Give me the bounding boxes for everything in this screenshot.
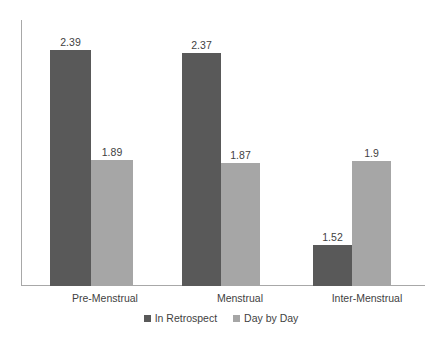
plot-area: 2.39 1.89 2.37 1.87 1.52 xyxy=(22,20,425,286)
legend-swatch-icon xyxy=(144,315,151,322)
bar-day-by-day-0[interactable]: 1.89 xyxy=(91,160,133,286)
legend-item-in-retrospect[interactable]: In Retrospect xyxy=(144,312,217,324)
bar-chart: 2.39 1.89 2.37 1.87 1.52 xyxy=(0,0,442,343)
bar-fill xyxy=(50,50,91,286)
bar-fill xyxy=(352,161,391,286)
category-label-2: Inter-Menstrual xyxy=(282,292,442,305)
bar-value-label: 1.9 xyxy=(364,147,379,159)
bar-group-1: 2.37 1.87 xyxy=(182,20,293,286)
bar-in-retrospect-0[interactable]: 2.39 xyxy=(50,50,91,286)
category-label-0: Pre-Menstrual xyxy=(35,292,175,305)
bar-group-2: 1.52 1.9 xyxy=(313,20,424,286)
bar-fill xyxy=(91,160,133,286)
bar-fill xyxy=(182,53,221,286)
bar-day-by-day-2[interactable]: 1.9 xyxy=(352,161,391,286)
chart-legend: In Retrospect Day by Day xyxy=(0,312,442,324)
bar-group-0: 2.39 1.89 xyxy=(50,20,161,286)
bar-in-retrospect-1[interactable]: 2.37 xyxy=(182,53,221,286)
bar-value-label: 2.39 xyxy=(60,36,80,48)
bar-value-label: 1.52 xyxy=(322,231,342,243)
legend-label: Day by Day xyxy=(244,312,298,324)
bar-fill xyxy=(313,245,352,286)
bar-in-retrospect-2[interactable]: 1.52 xyxy=(313,245,352,286)
bar-value-label: 2.37 xyxy=(191,39,211,51)
legend-swatch-icon xyxy=(233,315,240,322)
bar-value-label: 1.89 xyxy=(102,146,122,158)
legend-label: In Retrospect xyxy=(155,312,217,324)
bar-fill xyxy=(221,163,260,286)
bar-day-by-day-1[interactable]: 1.87 xyxy=(221,163,260,286)
bar-value-label: 1.87 xyxy=(230,149,250,161)
legend-item-day-by-day[interactable]: Day by Day xyxy=(233,312,298,324)
